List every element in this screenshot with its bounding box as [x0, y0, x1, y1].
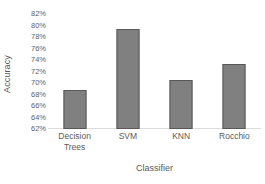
bar[interactable]	[116, 29, 139, 129]
bar[interactable]	[223, 64, 246, 129]
x-axis-tick-label: SVM	[101, 131, 154, 142]
x-axis-tick-label-line: Trees	[48, 142, 101, 153]
y-axis-tick-label: 74%	[20, 56, 46, 64]
x-axis-tick-labels: DecisionTreesSVMKNNRocchio	[48, 131, 261, 159]
y-axis-tick-label: 80%	[20, 22, 46, 30]
bar[interactable]	[63, 90, 86, 129]
y-axis-tick-label: 64%	[20, 114, 46, 122]
bar-slot	[155, 18, 208, 129]
y-axis-tick-label: 82%	[20, 10, 46, 18]
y-axis-tick-label: 66%	[20, 102, 46, 110]
x-axis-tick-label-line: Rocchio	[208, 131, 261, 142]
y-axis-tick-labels: 62%64%66%68%70%72%74%76%78%80%82%	[20, 14, 46, 129]
bar-chart-figure: Accuracy 62%64%66%68%70%72%74%76%78%80%8…	[0, 0, 265, 184]
x-axis-tick-label: DecisionTrees	[48, 131, 101, 153]
x-axis-tick-label: KNN	[155, 131, 208, 142]
bar-slot	[48, 18, 101, 129]
x-axis-title: Classifier	[48, 163, 261, 173]
bar[interactable]	[170, 80, 193, 129]
y-axis-tick-label: 70%	[20, 79, 46, 87]
bar-slot	[208, 18, 261, 129]
y-axis-tick-label: 62%	[20, 125, 46, 133]
x-axis-tick-label-line: Decision	[48, 131, 101, 142]
x-axis-tick-label-line: KNN	[155, 131, 208, 142]
x-axis-tick-label-line: SVM	[101, 131, 154, 142]
plot-area	[48, 18, 261, 129]
bar-slot	[101, 18, 154, 129]
y-axis-tick-label: 78%	[20, 33, 46, 41]
y-axis-tick-label: 68%	[20, 91, 46, 99]
y-axis-title: Accuracy	[2, 32, 16, 116]
y-axis-tick-label: 76%	[20, 45, 46, 53]
y-axis-tick-label: 72%	[20, 68, 46, 76]
x-axis-tick-label: Rocchio	[208, 131, 261, 142]
